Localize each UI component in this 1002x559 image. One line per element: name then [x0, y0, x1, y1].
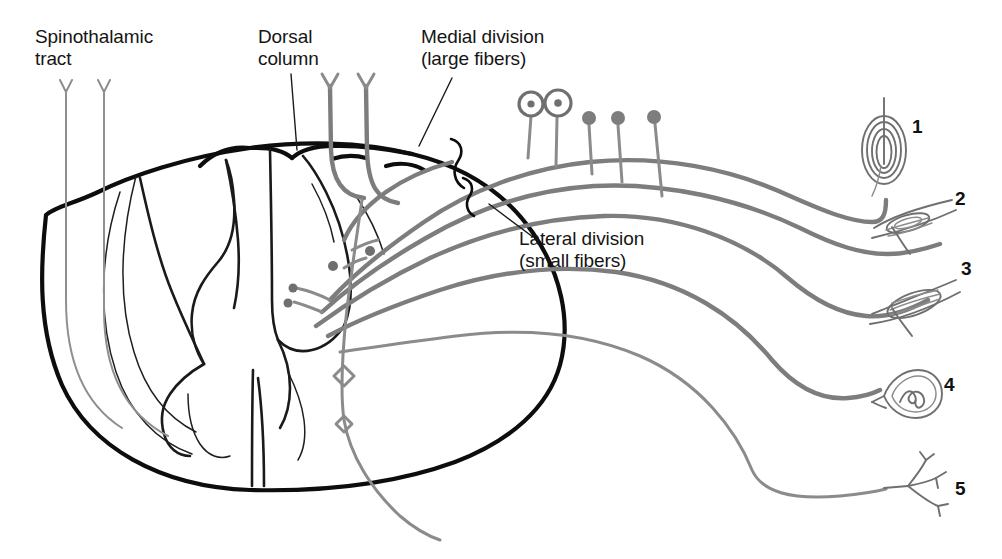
small-soma — [611, 111, 625, 125]
dorsal-column-label-line1: Dorsal — [258, 26, 312, 47]
receptor-number-2: 2 — [955, 188, 966, 210]
receptor-number-3: 3 — [961, 258, 972, 280]
small-soma — [647, 110, 661, 124]
receptor-number-1: 1 — [912, 116, 923, 138]
medial-division-label-line1: Medial division — [421, 26, 544, 47]
muscle-spindle-icon — [870, 280, 960, 336]
lateral-division-label-line1: Lateral division — [519, 228, 644, 249]
spinothalamic-tract-label-line1: Spinothalamic — [35, 26, 153, 47]
medial-division-label: Medial division(large fibers) — [421, 26, 544, 70]
medial-division-label-line2: (large fibers) — [421, 48, 526, 69]
receptor-number-5: 5 — [955, 478, 966, 500]
receptor-number-4: 4 — [944, 374, 955, 396]
spinothalamic-tract-label-line2: tract — [35, 48, 71, 69]
lateral-division-label-line2: (small fibers) — [519, 250, 626, 271]
dorsal-root-ganglion-cells — [519, 90, 662, 196]
diagram-canvas — [0, 0, 1002, 559]
spinothalamic-tract-fibers — [60, 80, 168, 436]
free-nerve-ending-icon — [884, 452, 948, 516]
lateral-division-label: Lateral division(small fibers) — [519, 228, 644, 272]
dorsal-column-label-line2: column — [258, 48, 319, 69]
small-soma — [582, 111, 596, 125]
meissner-corpuscle-icon — [872, 370, 942, 418]
dorsal-column-label: Dorsalcolumn — [258, 26, 319, 70]
spinal-cord-outline — [42, 143, 565, 490]
anatomical-diagram: Spinothalamictract Dorsalcolumn Medial d… — [0, 0, 1002, 559]
dorsal-column-fibers — [322, 74, 398, 203]
medial-division-leader — [419, 78, 452, 146]
spinothalamic-tract-label: Spinothalamictract — [35, 26, 153, 70]
dorsal-column-leader — [291, 74, 297, 150]
large-afferent-fibers — [316, 160, 940, 497]
pacinian-corpuscle-icon — [862, 98, 906, 196]
